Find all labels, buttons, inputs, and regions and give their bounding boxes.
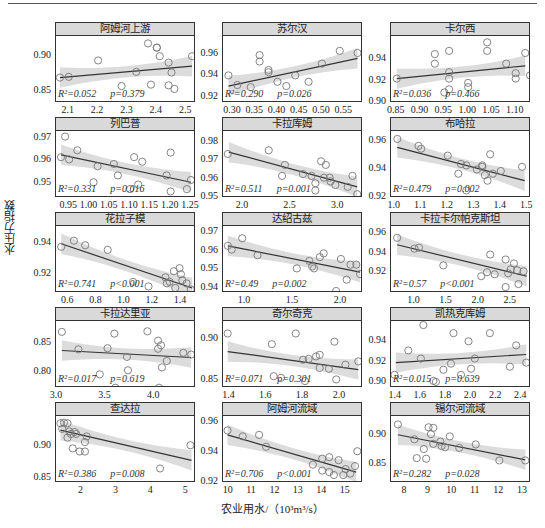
x-tick-label: 1.5 bbox=[431, 294, 461, 305]
y-tick-label: 0.90 bbox=[21, 49, 51, 60]
regression-stats: R²=0.282p=0.028 bbox=[393, 468, 480, 479]
x-tick-label: 2.0 bbox=[463, 294, 493, 305]
r-squared: R²=0.57 bbox=[393, 278, 426, 289]
data-point bbox=[420, 321, 427, 328]
data-point bbox=[465, 79, 472, 86]
x-axis-label: 农业用水/（10³m³/s） bbox=[0, 500, 545, 516]
y-tick-label: 0.96 bbox=[188, 244, 218, 255]
regression-stats: R²=0.57p<0.001 bbox=[393, 278, 475, 289]
r-squared: R²=0.479 bbox=[393, 183, 431, 194]
data-point bbox=[62, 133, 69, 140]
r-squared: R²=0.511 bbox=[225, 183, 263, 194]
data-point bbox=[145, 283, 152, 290]
y-tick-label: 0.94 bbox=[356, 246, 386, 257]
x-tick-label: 2.2 bbox=[82, 104, 112, 115]
y-tick-label: 0.96 bbox=[188, 47, 218, 58]
data-point bbox=[95, 57, 102, 64]
y-tick-label: 0.95 bbox=[188, 190, 218, 201]
regression-stats: R²=0.479p=0.002 bbox=[393, 183, 480, 194]
x-tick-label: 1.4 bbox=[165, 294, 195, 305]
y-tick-label: 0.95 bbox=[21, 176, 51, 187]
regression-stats: R²=0.511p=0.001 bbox=[225, 183, 311, 194]
data-point bbox=[467, 365, 474, 372]
regression-stats: R²=0.331p=0.016 bbox=[58, 183, 145, 194]
x-tick-label: 2.1 bbox=[53, 104, 83, 115]
y-tick-label: 0.80 bbox=[21, 365, 51, 376]
data-point bbox=[268, 341, 275, 348]
p-value: p<0.001 bbox=[440, 278, 474, 289]
y-tick-label: 0.90 bbox=[356, 375, 386, 386]
data-point bbox=[394, 421, 401, 428]
r-squared: R²=0.071 bbox=[225, 373, 263, 384]
x-tick-label: 2.5 bbox=[170, 104, 200, 115]
data-point bbox=[487, 151, 494, 158]
y-tick-label: 0.96 bbox=[188, 172, 218, 183]
data-point bbox=[156, 53, 163, 60]
facet-panel: 花拉子模R²=0.741p<0.001 bbox=[55, 212, 195, 292]
data-point bbox=[153, 44, 160, 51]
data-point bbox=[486, 330, 493, 337]
y-tick-label: 0.97 bbox=[188, 153, 218, 164]
data-point bbox=[278, 172, 285, 179]
y-tick-label: 0.94 bbox=[356, 162, 386, 173]
x-tick-label: 1.0 bbox=[229, 294, 259, 305]
p-value: p=0.016 bbox=[110, 183, 144, 194]
p-value: p<0.001 bbox=[277, 468, 311, 479]
x-tick-label: 1.0 bbox=[398, 294, 428, 305]
y-tick-label: 0.85 bbox=[188, 373, 218, 384]
data-point bbox=[225, 72, 232, 79]
x-tick-label: 1.6 bbox=[250, 389, 280, 400]
data-point bbox=[465, 338, 472, 345]
data-point bbox=[423, 455, 430, 462]
y-tick-label: 0.92 bbox=[356, 74, 386, 85]
p-value: p=0.002 bbox=[445, 183, 479, 194]
y-tick-label: 0.94 bbox=[188, 445, 218, 456]
x-tick-label: 1.2 bbox=[432, 199, 462, 210]
r-squared: R²=0.386 bbox=[58, 468, 96, 479]
regression-line bbox=[61, 155, 191, 182]
regression-stats: R²=0.017p=0.619 bbox=[58, 373, 145, 384]
data-point bbox=[144, 328, 151, 335]
x-tick-label: 2.4 bbox=[505, 389, 535, 400]
y-tick-label: 0.85 bbox=[21, 84, 51, 95]
data-point bbox=[69, 445, 76, 452]
x-tick-label: 1.10 bbox=[500, 104, 530, 115]
y-tick-label: 0.85 bbox=[356, 457, 386, 468]
x-tick-label: 3.0 bbox=[41, 389, 71, 400]
data-point bbox=[526, 72, 530, 79]
data-point bbox=[331, 338, 338, 345]
x-tick-label: 2.5 bbox=[495, 294, 525, 305]
y-tick-label: 0.97 bbox=[188, 225, 218, 236]
r-squared: R²=0.49 bbox=[225, 278, 258, 289]
data-point bbox=[144, 40, 151, 47]
data-point bbox=[111, 330, 118, 337]
x-tick-label: 2.0 bbox=[325, 294, 355, 305]
y-tick-label: 0.96 bbox=[356, 226, 386, 237]
data-point bbox=[430, 424, 437, 431]
panel-title: 阿姆河流域 bbox=[222, 402, 362, 416]
data-point bbox=[292, 330, 299, 337]
regression-line bbox=[398, 435, 525, 460]
data-point bbox=[158, 364, 165, 371]
data-point bbox=[293, 265, 300, 272]
facet-panel: 阿姆河流域R²=0.706p<0.001 bbox=[222, 402, 362, 482]
x-tick-label: 1.4 bbox=[485, 199, 515, 210]
x-tick-label: 4.0 bbox=[138, 389, 168, 400]
y-tick-label: 0.94 bbox=[21, 236, 51, 247]
p-value: p=0.028 bbox=[445, 468, 479, 479]
regression-stats: R²=0.386p=0.008 bbox=[58, 468, 145, 479]
x-tick-label: 0.6 bbox=[52, 294, 82, 305]
y-tick-label: 0.96 bbox=[21, 153, 51, 164]
data-point bbox=[139, 158, 146, 165]
regression-stats: R²=0.071p=0.301 bbox=[225, 373, 312, 384]
y-tick-label: 0.97 bbox=[21, 131, 51, 142]
panel-title: 锡尔河流域 bbox=[390, 402, 530, 416]
facet-panel: 卡拉库姆R²=0.511p=0.001 bbox=[222, 117, 362, 197]
panel-title: 阿姆河上游 bbox=[55, 22, 195, 36]
data-point bbox=[167, 149, 174, 156]
data-point bbox=[156, 465, 163, 472]
data-point bbox=[512, 75, 519, 82]
x-tick-label: 2.4 bbox=[141, 104, 171, 115]
facet-panel: 查达拉R²=0.386p=0.008 bbox=[55, 402, 195, 482]
r-squared: R²=0.036 bbox=[393, 88, 431, 99]
